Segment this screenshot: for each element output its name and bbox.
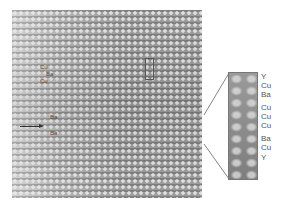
element-label: Ba — [261, 134, 271, 143]
micrograph-label: Ba — [46, 71, 53, 78]
element-label: Cu — [261, 121, 271, 130]
magnified-inset — [228, 72, 258, 180]
magnified-region-box — [145, 58, 154, 80]
micrograph-label: Cu — [40, 78, 48, 85]
element-label: Ba — [261, 90, 271, 99]
element-label: Cu — [261, 81, 271, 90]
element-label: Cu — [261, 143, 271, 152]
lattice-micrograph — [12, 10, 202, 198]
arrow-label: Ba — [50, 130, 57, 137]
element-label: Cu — [261, 103, 271, 112]
element-label: Y — [261, 72, 266, 81]
arrow-icon — [20, 124, 44, 128]
element-label: Cu — [261, 112, 271, 121]
micrograph-label: Cu — [40, 64, 48, 71]
arrow-label: Ba — [50, 114, 57, 121]
element-label: Y — [261, 153, 266, 162]
